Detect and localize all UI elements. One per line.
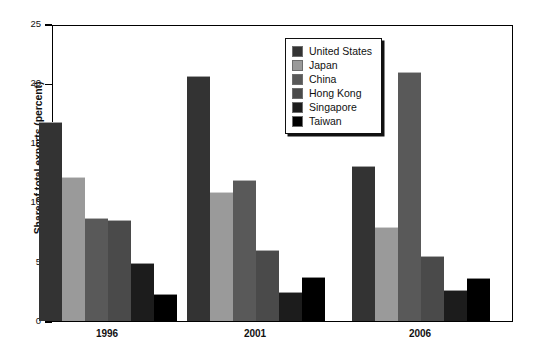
legend-swatch-icon bbox=[292, 88, 303, 99]
legend-item-japan: Japan bbox=[292, 58, 372, 72]
bar-singapore-2001 bbox=[279, 292, 302, 322]
legend-swatch-icon bbox=[292, 46, 303, 57]
bar-taiwan-1996 bbox=[154, 294, 177, 321]
bar-taiwan-2001 bbox=[302, 277, 325, 321]
legend-label: Singapore bbox=[309, 101, 357, 113]
bar-group-1996 bbox=[39, 26, 177, 321]
bar-china-2006 bbox=[398, 72, 421, 321]
bar-japan-2006 bbox=[375, 227, 398, 321]
legend: United StatesJapanChinaHong KongSingapor… bbox=[285, 38, 382, 134]
plot-area bbox=[52, 25, 513, 322]
bar-singapore-2006 bbox=[444, 290, 467, 321]
legend-item-taiwan: Taiwan bbox=[292, 114, 372, 128]
legend-label: Hong Kong bbox=[309, 87, 362, 99]
legend-label: Taiwan bbox=[309, 115, 342, 127]
bar-united-states-2006 bbox=[352, 166, 375, 321]
bar-china-1996 bbox=[85, 218, 108, 321]
bar-hong-kong-1996 bbox=[108, 220, 131, 321]
bar-united-states-1996 bbox=[39, 122, 62, 321]
bar-japan-1996 bbox=[62, 177, 85, 321]
bar-hong-kong-2001 bbox=[256, 250, 279, 321]
legend-swatch-icon bbox=[292, 74, 303, 85]
legend-label: China bbox=[309, 73, 336, 85]
legend-swatch-icon bbox=[292, 60, 303, 71]
legend-item-hong-kong: Hong Kong bbox=[292, 86, 372, 100]
x-axis-label-1996: 1996 bbox=[96, 328, 118, 339]
bar-chart: Share of total exports (percent) 0510152… bbox=[0, 0, 535, 349]
bar-japan-2001 bbox=[210, 192, 233, 321]
bar-taiwan-2006 bbox=[467, 278, 490, 321]
legend-label: Japan bbox=[309, 59, 338, 71]
x-axis-label-2006: 2006 bbox=[409, 328, 431, 339]
legend-label: United States bbox=[309, 45, 372, 57]
bar-singapore-1996 bbox=[131, 263, 154, 321]
legend-swatch-icon bbox=[292, 116, 303, 127]
legend-item-china: China bbox=[292, 72, 372, 86]
x-axis-label-2001: 2001 bbox=[244, 328, 266, 339]
bar-united-states-2001 bbox=[187, 76, 210, 321]
y-tick-mark bbox=[45, 321, 52, 322]
legend-swatch-icon bbox=[292, 102, 303, 113]
legend-item-singapore: Singapore bbox=[292, 100, 372, 114]
legend-item-united-states: United States bbox=[292, 44, 372, 58]
bar-china-2001 bbox=[233, 180, 256, 321]
bar-hong-kong-2006 bbox=[421, 256, 444, 321]
